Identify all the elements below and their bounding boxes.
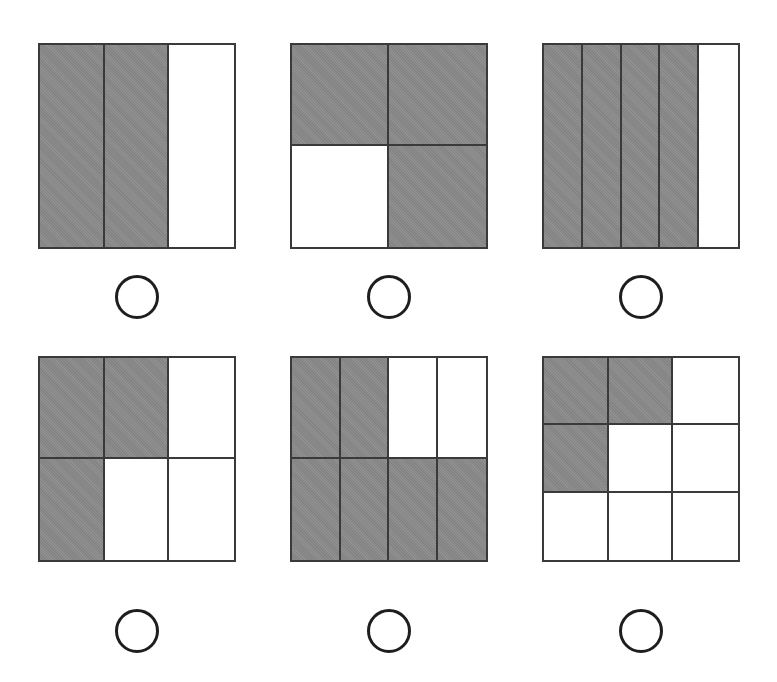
unshaded-part: [673, 358, 738, 425]
answer-radio-5[interactable]: [367, 609, 411, 653]
fraction-figure-4: [38, 356, 236, 562]
shaded-part: [389, 45, 486, 146]
shaded-part: [544, 45, 583, 247]
fraction-figure-6: [542, 356, 740, 562]
shaded-part: [544, 358, 609, 425]
shaded-part: [40, 358, 105, 459]
shaded-part: [622, 45, 661, 247]
shaded-part: [389, 146, 486, 247]
answer-radio-6[interactable]: [619, 609, 663, 653]
shaded-part: [292, 45, 389, 146]
unshaded-part: [389, 358, 438, 459]
shaded-part: [544, 425, 609, 492]
unshaded-part: [292, 146, 389, 247]
shaded-part: [40, 459, 105, 560]
unshaded-part: [673, 425, 738, 492]
unshaded-part: [169, 459, 234, 560]
shaded-part: [609, 358, 674, 425]
fraction-figure-2: [290, 43, 488, 249]
shaded-part: [105, 358, 170, 459]
shaded-part: [292, 459, 341, 560]
unshaded-part: [105, 459, 170, 560]
unshaded-part: [169, 358, 234, 459]
unshaded-part: [699, 45, 738, 247]
shaded-part: [583, 45, 622, 247]
fraction-figure-3: [542, 43, 740, 249]
shaded-part: [341, 358, 390, 459]
answer-radio-1[interactable]: [115, 275, 159, 319]
shaded-part: [105, 45, 170, 247]
unshaded-part: [673, 493, 738, 560]
shaded-part: [660, 45, 699, 247]
unshaded-part: [609, 425, 674, 492]
shaded-part: [341, 459, 390, 560]
shaded-part: [292, 358, 341, 459]
answer-radio-2[interactable]: [367, 275, 411, 319]
fraction-figure-1: [38, 43, 236, 249]
unshaded-part: [609, 493, 674, 560]
shaded-part: [438, 459, 487, 560]
fraction-figure-5: [290, 356, 488, 562]
unshaded-part: [544, 493, 609, 560]
shaded-part: [40, 45, 105, 247]
shaded-part: [389, 459, 438, 560]
answer-radio-3[interactable]: [619, 275, 663, 319]
unshaded-part: [438, 358, 487, 459]
answer-radio-4[interactable]: [115, 609, 159, 653]
unshaded-part: [169, 45, 234, 247]
